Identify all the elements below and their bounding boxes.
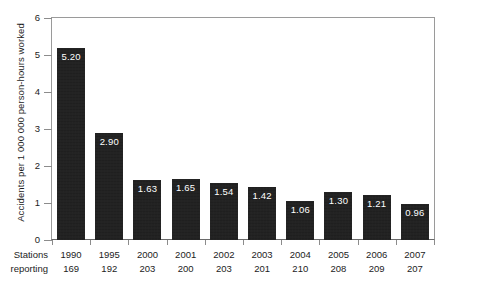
- category-column: 2001200: [167, 248, 205, 276]
- bar-value-label: 1.30: [324, 196, 352, 206]
- x-tick-mark: [281, 240, 282, 245]
- bar-value-label: 1.42: [248, 191, 276, 201]
- category-year-label: 2002: [205, 248, 243, 262]
- y-tick-label: 4: [26, 87, 40, 97]
- category-stations-count: 192: [90, 262, 128, 276]
- bar-value-label: 1.21: [363, 199, 391, 209]
- bar-chart: Accidents per 1 000 000 person-hours wor…: [0, 0, 487, 290]
- bar[interactable]: 2.90: [95, 133, 123, 240]
- bar-slot: 2.90: [90, 18, 128, 240]
- category-column: 2003201: [243, 248, 281, 276]
- bar-slot: 1.65: [167, 18, 205, 240]
- y-tick-mark: [44, 92, 52, 93]
- bar-slot: 5.20: [52, 18, 90, 240]
- category-stations-count: 207: [396, 262, 434, 276]
- x-tick-mark: [243, 240, 244, 245]
- bar-slot: 0.96: [396, 18, 434, 240]
- category-year-label: 2004: [281, 248, 319, 262]
- y-tick-label: 5: [26, 50, 40, 60]
- category-stations-count: 210: [281, 262, 319, 276]
- bar[interactable]: 5.20: [57, 48, 85, 240]
- bar-value-label: 5.20: [57, 52, 85, 62]
- bars-container: 5.202.901.631.651.541.421.061.301.210.96: [52, 18, 434, 240]
- category-column: 2004210: [281, 248, 319, 276]
- category-year-label: 1995: [90, 248, 128, 262]
- stations-reporting-label: Stations reporting: [0, 248, 48, 276]
- category-year-label: 2000: [128, 248, 166, 262]
- category-stations-count: 209: [358, 262, 396, 276]
- bar[interactable]: 0.96: [401, 204, 429, 240]
- y-tick-mark: [44, 203, 52, 204]
- y-tick-label: 6: [26, 13, 40, 23]
- category-column: 2000203: [128, 248, 166, 276]
- bar[interactable]: 1.63: [133, 180, 161, 240]
- x-tick-mark: [358, 240, 359, 245]
- x-tick-mark: [90, 240, 91, 245]
- bar[interactable]: 1.30: [324, 192, 352, 240]
- y-tick-label: 2: [26, 161, 40, 171]
- y-tick-mark: [44, 55, 52, 56]
- bar-slot: 1.42: [243, 18, 281, 240]
- category-column: 1995192: [90, 248, 128, 276]
- category-column: 2002203: [205, 248, 243, 276]
- bar-value-label: 1.63: [133, 184, 161, 194]
- stations-reporting-line-1: Stations: [0, 248, 48, 262]
- y-tick-mark: [44, 18, 52, 19]
- y-tick-label: 1: [26, 198, 40, 208]
- category-stations-count: 169: [52, 262, 90, 276]
- y-axis-title: Accidents per 1 000 000 person-hours wor…: [15, 7, 26, 239]
- category-stations-count: 208: [319, 262, 357, 276]
- bar-value-label: 0.96: [401, 208, 429, 218]
- bar-slot: 1.54: [205, 18, 243, 240]
- category-year-label: 2007: [396, 248, 434, 262]
- bar[interactable]: 1.06: [286, 201, 314, 240]
- x-tick-mark: [167, 240, 168, 245]
- bar[interactable]: 1.42: [248, 187, 276, 240]
- x-tick-mark: [434, 240, 435, 245]
- category-year-label: 2006: [358, 248, 396, 262]
- category-year-label: 1990: [52, 248, 90, 262]
- x-tick-mark: [396, 240, 397, 245]
- bar-slot: 1.06: [281, 18, 319, 240]
- x-tick-mark: [52, 240, 53, 245]
- category-stations-count: 203: [205, 262, 243, 276]
- y-tick-mark: [44, 129, 52, 130]
- bar-slot: 1.21: [358, 18, 396, 240]
- y-tick-mark: [44, 240, 52, 241]
- bar[interactable]: 1.65: [172, 179, 200, 240]
- category-stations-count: 201: [243, 262, 281, 276]
- bar-value-label: 1.65: [172, 183, 200, 193]
- bar-value-label: 2.90: [95, 137, 123, 147]
- bar-value-label: 1.54: [210, 187, 238, 197]
- bar[interactable]: 1.21: [363, 195, 391, 240]
- bar-slot: 1.30: [319, 18, 357, 240]
- x-tick-mark: [205, 240, 206, 245]
- stations-reporting-line-2: reporting: [0, 262, 48, 276]
- category-stations-count: 203: [128, 262, 166, 276]
- y-tick-label: 3: [26, 124, 40, 134]
- bar-slot: 1.63: [128, 18, 166, 240]
- category-column: 2007207: [396, 248, 434, 276]
- category-year-label: 2001: [167, 248, 205, 262]
- y-tick-mark: [44, 166, 52, 167]
- category-column: 2006209: [358, 248, 396, 276]
- category-stations-count: 200: [167, 262, 205, 276]
- category-year-label: 2005: [319, 248, 357, 262]
- x-tick-mark: [319, 240, 320, 245]
- y-tick-label: 0: [26, 235, 40, 245]
- x-tick-mark: [128, 240, 129, 245]
- category-column: 2005208: [319, 248, 357, 276]
- bar[interactable]: 1.54: [210, 183, 238, 240]
- category-column: 1990169: [52, 248, 90, 276]
- category-year-label: 2003: [243, 248, 281, 262]
- bar-value-label: 1.06: [286, 205, 314, 215]
